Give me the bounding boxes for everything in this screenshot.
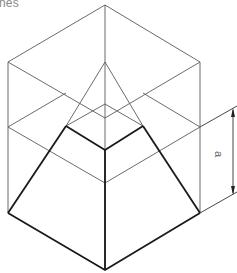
dimension-label-a: a xyxy=(213,151,225,157)
isometric-cube-pyramid-diagram xyxy=(0,0,237,273)
dimension-a xyxy=(200,106,237,213)
frustum-bold-edges xyxy=(8,126,200,270)
